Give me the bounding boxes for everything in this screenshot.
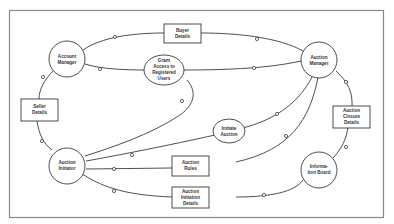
flow-marker bbox=[275, 112, 278, 115]
process-auction-initiator[interactable]: Auction Initiator bbox=[49, 148, 85, 184]
store-auction-rules[interactable]: Auction Rules bbox=[172, 156, 209, 176]
store-label: Details bbox=[32, 110, 48, 115]
edge-seller-details-auction-initiator bbox=[37, 121, 52, 150]
flow-marker bbox=[112, 189, 115, 192]
process-grant-access[interactable]: Grant Access to Registered Users bbox=[144, 55, 184, 85]
process-label: Registered bbox=[152, 70, 176, 75]
store-label: Details bbox=[183, 201, 199, 206]
edge-auction-manager-auction-rules bbox=[236, 77, 318, 162]
edge-account-manager-grant-access bbox=[85, 64, 145, 70]
store-label: Closure bbox=[343, 114, 361, 119]
edge-account-manager-seller-details bbox=[39, 71, 53, 99]
edge-auction-rules-auction-initiator bbox=[86, 168, 172, 169]
process-label: Users bbox=[158, 76, 171, 81]
process-label: Access to bbox=[153, 64, 175, 69]
store-buyer-details[interactable]: Buyer Details bbox=[164, 24, 201, 43]
process-label: tion Board bbox=[308, 170, 331, 175]
flow-marker bbox=[41, 75, 44, 78]
store-label: Auction bbox=[182, 189, 199, 194]
process-label: Initiator bbox=[59, 166, 76, 171]
store-label: Initiation bbox=[181, 195, 200, 200]
process-label: Manager bbox=[310, 61, 329, 66]
store-auction-initiation-details[interactable]: Auction Initiation Details bbox=[172, 187, 209, 208]
store-auction-closure-details[interactable]: Auction Closure Details bbox=[333, 106, 370, 128]
edge-closure-details-information-board bbox=[333, 127, 348, 158]
process-initiate-auction[interactable]: Initiate Auction bbox=[213, 119, 245, 143]
store-label: Details bbox=[344, 120, 360, 125]
process-label: Informa- bbox=[310, 164, 329, 169]
process-label: Auction bbox=[310, 55, 327, 60]
edge-grant-access-auction-initiator bbox=[85, 80, 193, 156]
store-label: Auction bbox=[343, 108, 360, 113]
edge-grant-access-auction-manager bbox=[183, 61, 301, 70]
process-account-manager[interactable]: Account Manager bbox=[49, 41, 85, 77]
process-label: Manager bbox=[58, 60, 77, 65]
flow-marker bbox=[262, 193, 265, 196]
edge-account-manager-buyer-details bbox=[83, 33, 164, 50]
flow-marker bbox=[255, 37, 258, 40]
process-label: Grant bbox=[158, 58, 171, 63]
edge-auction-manager-initiate-auction bbox=[243, 77, 312, 128]
process-label: Auction bbox=[220, 132, 237, 137]
store-label: Buyer bbox=[176, 28, 189, 33]
store-label: Seller bbox=[33, 104, 46, 109]
flow-marker bbox=[113, 35, 116, 38]
process-auction-manager[interactable]: Auction Manager bbox=[301, 42, 337, 78]
flow-marker bbox=[284, 134, 287, 137]
flow-marker bbox=[130, 153, 133, 156]
store-seller-details[interactable]: Seller Details bbox=[21, 99, 58, 121]
edge-buyer-details-auction-manager bbox=[201, 33, 303, 51]
data-flow-diagram: Buyer Details Seller Details Auction Clo… bbox=[0, 0, 394, 224]
flow-marker bbox=[344, 145, 347, 148]
flow-marker bbox=[112, 167, 115, 170]
process-label: Account bbox=[58, 54, 77, 59]
process-label: Auction bbox=[58, 160, 75, 165]
process-label: Initiate bbox=[222, 126, 237, 131]
process-information-board[interactable]: Informa- tion Board bbox=[301, 152, 337, 188]
flow-marker bbox=[180, 99, 183, 102]
store-label: Details bbox=[175, 34, 191, 39]
store-label: Auction bbox=[182, 160, 199, 165]
flow-marker bbox=[252, 66, 255, 69]
flow-marker bbox=[98, 67, 101, 70]
edge-auction-manager-closure-details bbox=[336, 71, 352, 108]
edge-initiation-details-information-board bbox=[236, 180, 303, 197]
flow-marker bbox=[40, 139, 43, 142]
store-label: Rules bbox=[184, 166, 197, 171]
flow-marker bbox=[344, 80, 347, 83]
edge-auction-initiator-initiation-details bbox=[82, 174, 172, 197]
